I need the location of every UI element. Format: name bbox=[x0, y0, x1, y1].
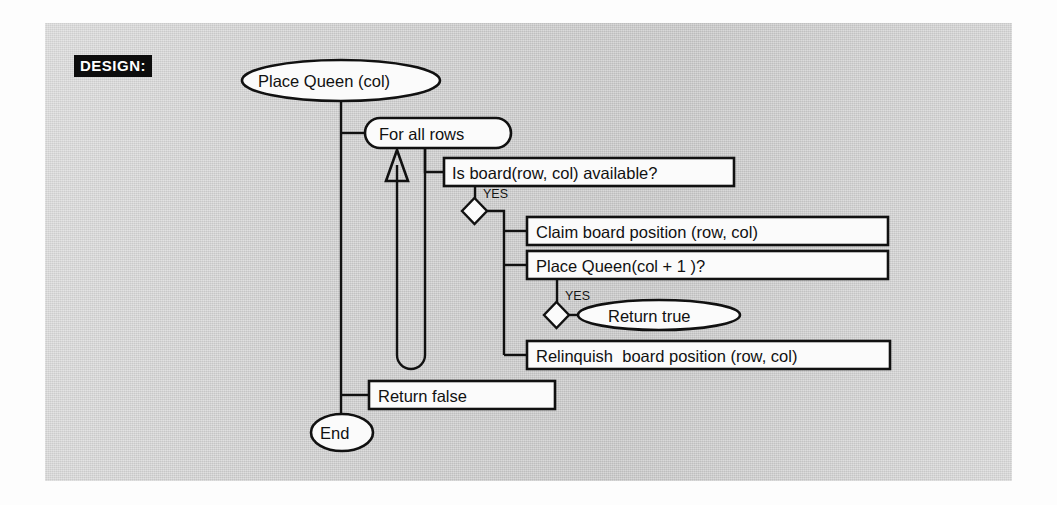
design-label: DESIGN: bbox=[74, 55, 152, 77]
node-label-for-all-rows: For all rows bbox=[379, 126, 464, 143]
node-label-is-board-available: Is board(row, col) available? bbox=[452, 165, 657, 182]
node-decision-diamond-available bbox=[462, 198, 487, 224]
node-label-end: End bbox=[320, 425, 349, 442]
node-label-claim-board-position: Claim board position (row, col) bbox=[536, 224, 758, 241]
edge-label-yes-recurse: YES bbox=[565, 290, 590, 303]
edge-forallrows-branch bbox=[425, 148, 445, 172]
node-label-relinquish-board-position: Relinquish board position (row, col) bbox=[536, 348, 797, 365]
flowchart-vector-layer: .sh { fill:#fbfbfb; stroke:#111111; stro… bbox=[0, 0, 1057, 505]
edge-diamond1-child-spine bbox=[487, 211, 504, 355]
node-label-return-true: Return true bbox=[608, 308, 691, 325]
node-label-place-queen-start: Place Queen (col) bbox=[258, 73, 390, 90]
node-label-place-queen-recurse: Place Queen(col + 1 )? bbox=[536, 258, 705, 275]
flowchart-page: .sh { fill:#fbfbfb; stroke:#111111; stro… bbox=[0, 0, 1057, 505]
node-decision-diamond-recurse bbox=[544, 302, 569, 328]
node-label-return-false: Return false bbox=[378, 388, 467, 405]
edge-label-yes-available: YES bbox=[483, 188, 508, 201]
